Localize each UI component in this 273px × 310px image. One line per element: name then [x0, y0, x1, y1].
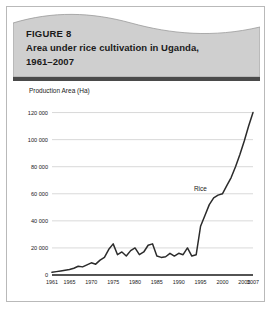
y-tick-label: 60 000 — [31, 191, 48, 197]
chart-plot-panel: Production Area (Ha) 020 00040 00060 000… — [13, 85, 260, 297]
figure-card: FIGURE 8 Area under rice cultivation in … — [6, 6, 265, 302]
series-line-rice — [52, 113, 253, 273]
x-tick-label: 2000 — [216, 279, 228, 285]
annotations-group: Rice — [194, 185, 207, 192]
figure-title: Area under rice cultivation in Uganda, 1… — [26, 41, 251, 68]
figure-number: FIGURE 8 — [26, 27, 251, 40]
x-tick-labels-group: 1961196519701975198019851990199520002005… — [46, 279, 259, 285]
x-tick-label: 1990 — [173, 279, 185, 285]
y-tick-label: 120 000 — [28, 110, 48, 116]
header-divider-bar — [13, 77, 260, 81]
y-tick-label: 20 000 — [31, 245, 48, 251]
y-tick-label: 0 — [45, 272, 48, 278]
x-tick-label: 1995 — [195, 279, 207, 285]
figure-title-line-1: Area under rice cultivation in Uganda, — [26, 41, 251, 55]
x-tick-label: 1961 — [46, 279, 58, 285]
y-tick-label: 80 000 — [31, 164, 48, 170]
y-tick-label: 40 000 — [31, 218, 48, 224]
x-tick-label: 1965 — [63, 279, 75, 285]
figure-header-text: FIGURE 8 Area under rice cultivation in … — [26, 27, 251, 68]
figure-title-line-2: 1961–2007 — [26, 55, 251, 69]
x-tick-label: 1980 — [129, 279, 141, 285]
x-tick-label: 1975 — [107, 279, 119, 285]
y-tick-labels-group: 020 00040 00060 00080 000100 000120 000 — [28, 110, 48, 278]
x-tick-label: 1970 — [85, 279, 97, 285]
series-annotation-rice: Rice — [194, 185, 207, 192]
x-tick-label: 2007 — [247, 279, 259, 285]
figure-header-banner: FIGURE 8 Area under rice cultivation in … — [13, 13, 260, 77]
x-tick-label: 1985 — [151, 279, 163, 285]
rice-area-line-chart: 020 00040 00060 00080 000100 000120 000 … — [13, 85, 260, 297]
gridlines-group — [52, 113, 253, 248]
y-tick-label: 100 000 — [28, 137, 48, 143]
